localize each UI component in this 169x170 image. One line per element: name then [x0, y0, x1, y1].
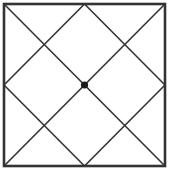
- square-diagram: [0, 0, 169, 170]
- center-point: [81, 81, 88, 88]
